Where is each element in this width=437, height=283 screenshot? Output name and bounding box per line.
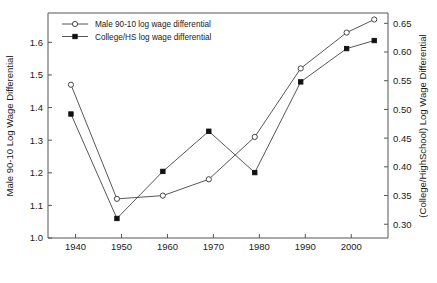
legend-label-1: College/HS log wage differential [95,33,212,42]
data-point [253,170,257,174]
data-point [298,66,303,71]
y2-tick-label: 0.45 [393,133,412,144]
data-point [206,177,211,182]
data-point [344,46,348,50]
data-point [161,169,165,173]
y2-tick-label: 0.30 [393,219,412,230]
data-point [372,38,376,42]
y-tick-label: 1.6 [30,37,43,48]
y-tick-label: 1.5 [30,69,43,80]
data-point [252,134,257,139]
y-axis-right-title: (College/HighSchool) Log Wage Differenti… [417,34,428,217]
data-point [160,193,165,198]
x-tick-label: 1960 [157,241,178,252]
data-point [68,82,73,87]
x-tick-label: 2000 [341,241,362,252]
y-tick-label: 1.1 [30,200,43,211]
y-tick-label: 1.4 [30,102,43,113]
y-axis-left-title: Male 90-10 Log Wage Differential [4,56,15,197]
x-tick-label: 1950 [111,241,132,252]
y-tick-label: 1.3 [30,135,43,146]
y2-tick-label: 0.35 [393,190,412,201]
y2-tick-label: 0.40 [393,161,412,172]
y2-tick-label: 0.60 [393,46,412,57]
data-point [344,30,349,35]
y2-tick-label: 0.55 [393,75,412,86]
data-point [69,112,73,116]
x-tick-label: 1970 [203,241,224,252]
x-tick-label: 1940 [65,241,86,252]
x-tick-label: 1980 [249,241,270,252]
data-point [299,80,303,84]
data-point [114,196,119,201]
y2-tick-label: 0.65 [393,18,412,29]
x-tick-label: 1990 [295,241,316,252]
data-point [115,216,119,220]
legend-marker-open-circle [72,21,77,26]
y2-tick-label: 0.50 [393,104,412,115]
legend-label-0: Male 90-10 log wage differential [95,20,211,29]
y-tick-label: 1.2 [30,167,43,178]
legend-marker-filled-square [73,34,77,38]
y-tick-label: 1.0 [30,232,43,243]
data-point [372,17,377,22]
data-point [207,129,211,133]
chart-container: 1.01.11.21.31.41.51.6 0.300.350.400.450.… [0,0,437,283]
wage-differential-line-chart: 1.01.11.21.31.41.51.6 0.300.350.400.450.… [0,0,437,283]
